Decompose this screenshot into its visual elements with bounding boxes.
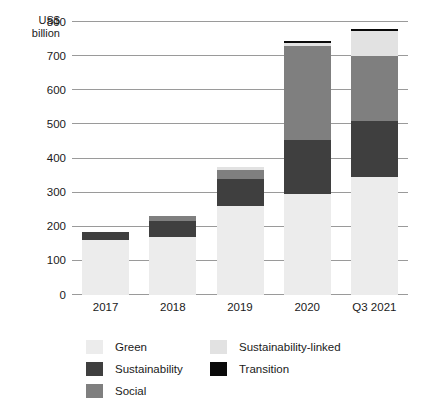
bar-segment-sustainability-linked (284, 43, 331, 46)
bar-segment-social (284, 46, 331, 140)
bar-segment-green (82, 240, 129, 295)
bar-segment-transition (351, 29, 398, 31)
bar-segment-sustainability-linked (217, 167, 264, 171)
legend-item: Green (86, 336, 183, 358)
legend-column-left: GreenSustainabilitySocial (86, 336, 183, 402)
bar-segment-social (217, 170, 264, 179)
bar-group (351, 22, 398, 295)
legend-label: Green (115, 341, 147, 354)
bar-segment-transition (284, 41, 331, 43)
social-swatch (86, 384, 103, 398)
y-axis-tick-labels: 0100200300400500600700800 (22, 22, 66, 295)
y-axis-tick-label: 100 (26, 255, 66, 267)
bar-segment-sustainability (149, 221, 196, 237)
stacked-bar-chart: US$ billion 0100200300400500600700800 20… (0, 0, 422, 416)
legend-item: Social (86, 380, 183, 402)
bar-group (82, 22, 129, 295)
y-axis-tick-label: 200 (26, 221, 66, 233)
y-axis-tick-label: 300 (26, 187, 66, 199)
transition-swatch (210, 362, 227, 376)
bar-segment-sustainability (82, 232, 129, 241)
legend-label: Social (115, 385, 146, 398)
bar-group (217, 22, 264, 295)
bar-segment-green (351, 177, 398, 295)
bar-segment-sustainability (217, 179, 264, 206)
x-axis-tick-label: 2018 (139, 300, 206, 314)
legend-item: Transition (210, 358, 341, 380)
y-axis-tick-label: 800 (26, 17, 66, 29)
plot-area (72, 22, 408, 295)
sustainability-swatch (86, 362, 103, 376)
bar-group (284, 22, 331, 295)
x-axis-tick-label: 2017 (72, 300, 139, 314)
legend-label: Sustainability (115, 363, 183, 376)
y-axis-tick-label: 700 (26, 51, 66, 63)
legend-label: Transition (239, 363, 289, 376)
legend-label: Sustainability-linked (239, 341, 341, 354)
legend-item: Sustainability (86, 358, 183, 380)
x-axis-tick-label: 2019 (206, 300, 273, 314)
green-swatch (86, 340, 103, 354)
x-axis-tick-label: 2020 (274, 300, 341, 314)
x-axis-tick-label: Q3 2021 (341, 300, 408, 314)
bar-segment-sustainability-linked (351, 31, 398, 57)
bar-segment-green (284, 194, 331, 295)
legend-item: Sustainability-linked (210, 336, 341, 358)
y-axis-tick-label: 400 (26, 153, 66, 165)
y-axis-tick-label: 0 (26, 290, 66, 302)
bar-segment-sustainability (351, 121, 398, 177)
y-axis-tick-label: 500 (26, 119, 66, 131)
bar-segment-sustainability (284, 140, 331, 194)
y-axis-tick-label: 600 (26, 85, 66, 97)
bar-segment-social (351, 56, 398, 121)
bar-segment-green (149, 237, 196, 295)
sustainability-linked-swatch (210, 340, 227, 354)
bar-segment-green (217, 206, 264, 295)
x-axis-tick-labels: 2017201820192020Q3 2021 (72, 300, 408, 318)
legend-column-right: Sustainability-linkedTransition (210, 336, 341, 380)
bar-segment-social (149, 216, 196, 221)
bar-series-container (72, 22, 408, 295)
bar-group (149, 22, 196, 295)
